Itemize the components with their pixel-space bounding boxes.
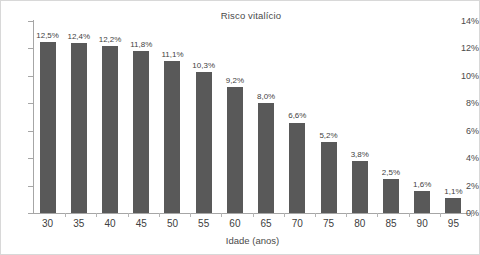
x-axis-label: 60 [218,218,252,229]
bar-value-label: 1,6% [405,180,439,189]
bar-value-label: 3,8% [343,150,377,159]
x-axis-tick [128,213,129,217]
x-axis-tick [221,213,222,217]
bar[interactable] [71,43,87,213]
x-axis-label: 50 [155,218,189,229]
bar-chart: Risco vitalício 0%2%4%6%8%10%12%14% 3035… [0,0,480,255]
bar-value-label: 12,4% [62,32,96,41]
x-axis-tick [471,213,472,217]
x-axis-tick [377,213,378,217]
x-axis-tick [65,213,66,217]
bar[interactable] [40,42,56,213]
bar-value-label: 1,1% [436,187,470,196]
x-axis-label: 55 [187,218,221,229]
x-axis-title: Idade (anos) [34,235,471,246]
x-axis-label: 65 [249,218,283,229]
bar[interactable] [352,161,368,213]
bar-value-label: 11,8% [124,40,158,49]
bar-value-label: 2,5% [374,168,408,177]
bar[interactable] [227,87,243,213]
bar-value-label: 12,2% [93,35,127,44]
x-axis-label: 75 [312,218,346,229]
x-axis-label: 90 [405,218,439,229]
bar[interactable] [289,123,305,214]
x-axis-tick [409,213,410,217]
bar[interactable] [196,72,212,213]
x-axis-label: 40 [93,218,127,229]
bar-value-label: 11,1% [155,50,189,59]
bar-value-label: 10,3% [187,61,221,70]
x-axis-tick [159,213,160,217]
bar-value-label: 6,6% [280,111,314,120]
bar-value-label: 8,0% [249,92,283,101]
bar[interactable] [258,103,274,213]
bar-value-label: 9,2% [218,76,252,85]
x-axis-label: 45 [124,218,158,229]
x-axis-label: 30 [31,218,65,229]
x-axis-tick [253,213,254,217]
chart-title: Risco vitalício [1,10,479,21]
bar[interactable] [445,198,461,213]
bar-value-label: 12,5% [31,31,65,40]
bar[interactable] [133,51,149,213]
y-axis-tick [28,213,34,214]
bar[interactable] [321,142,337,213]
x-axis-tick [315,213,316,217]
x-axis-tick [96,213,97,217]
bar[interactable] [383,179,399,213]
x-axis-label: 70 [280,218,314,229]
bar-value-label: 5,2% [312,131,346,140]
x-axis-tick [284,213,285,217]
x-axis-label: 85 [374,218,408,229]
x-axis-label: 35 [62,218,96,229]
x-axis-tick [440,213,441,217]
bar[interactable] [164,61,180,213]
x-axis-tick [346,213,347,217]
x-axis-tick [190,213,191,217]
x-axis-label: 80 [343,218,377,229]
x-axis-label: 95 [436,218,470,229]
bar[interactable] [414,191,430,213]
bar[interactable] [102,46,118,213]
